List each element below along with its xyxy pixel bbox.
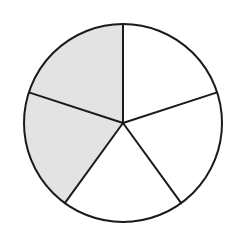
fraction-circle-diagram <box>0 0 237 229</box>
pie-circle <box>0 0 237 229</box>
